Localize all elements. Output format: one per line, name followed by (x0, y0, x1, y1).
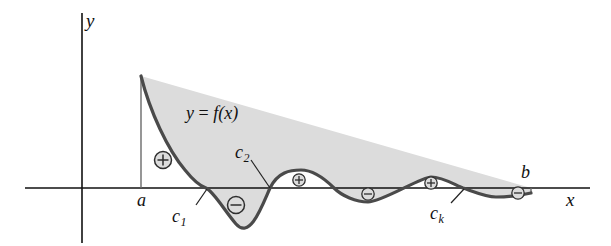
interval-start-label-a: a (137, 191, 146, 209)
ck-leader-line (451, 189, 464, 203)
x-axis-label: x (566, 190, 574, 209)
partition-label-c1-base: c (172, 206, 180, 226)
function-graph-svg (0, 0, 611, 246)
y-axis-label: y (86, 11, 94, 30)
curve-equation-label: y = f(x) (186, 104, 238, 122)
partition-label-ck-subscript: k (439, 212, 444, 226)
partition-label-c2-subscript: 2 (244, 151, 250, 165)
sign-marker-minus-1 (228, 197, 245, 214)
curve-equation-lhs: y (186, 103, 194, 123)
sign-marker-plus-1 (155, 152, 172, 169)
sign-marker-minus-3 (512, 187, 524, 199)
sign-marker-minus-2 (362, 188, 374, 200)
partition-label-c2: c2 (235, 143, 250, 164)
partition-label-c1: c1 (172, 207, 187, 228)
sign-marker-plus-2 (293, 174, 305, 186)
shaded-area-region (141, 76, 531, 228)
sign-marker-plus-3 (425, 177, 437, 189)
c1-leader-line (196, 189, 207, 205)
interval-end-label-b: b (521, 163, 530, 181)
partition-label-c1-subscript: 1 (181, 215, 187, 229)
partition-label-ck-base: c (430, 203, 438, 223)
curve-equation-rhs: f(x) (213, 103, 238, 123)
figure-canvas: y x a b y = f(x) c1 c2 ck (0, 0, 611, 246)
partition-label-ck: ck (430, 204, 444, 225)
partition-label-c2-base: c (235, 142, 243, 162)
curve-equation-operator: = (194, 103, 213, 123)
